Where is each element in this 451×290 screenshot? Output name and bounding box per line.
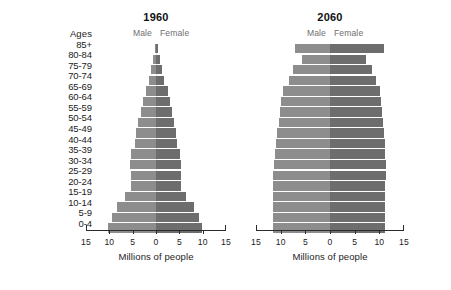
pyramid-row xyxy=(86,149,226,160)
pyramid-row xyxy=(256,213,404,224)
panel-2060: 2060 Male Female Millions of people 1510… xyxy=(256,0,404,290)
axis-tick xyxy=(355,230,356,234)
bar-female xyxy=(330,149,385,158)
bar-female xyxy=(330,86,380,95)
pyramid-row xyxy=(86,55,226,66)
bar-female xyxy=(156,55,160,64)
pyramid-row xyxy=(256,118,404,129)
female-legend-label-1960: Female xyxy=(160,28,189,38)
pyramid-row xyxy=(256,202,404,213)
panel-1960: 1960 Male Female Millions of people 1510… xyxy=(86,0,226,290)
panel-1960-sex-labels: Male Female xyxy=(86,28,226,40)
bar-male xyxy=(275,149,330,158)
male-legend-label-1960: Male xyxy=(133,28,152,38)
bar-male xyxy=(273,213,330,222)
pyramid-row xyxy=(256,65,404,76)
axis-tick xyxy=(256,225,257,231)
pyramid-row xyxy=(86,118,226,129)
axis-tick-label: 10 xyxy=(104,237,114,247)
ages-header: Ages xyxy=(40,28,92,40)
bar-female xyxy=(330,160,386,169)
axis-tick-label: 15 xyxy=(81,237,91,247)
bar-female xyxy=(330,97,381,106)
axis-title-1960: Millions of people xyxy=(86,251,226,262)
axis-tick xyxy=(86,225,87,231)
pyramid-row xyxy=(256,139,404,150)
bar-male xyxy=(141,107,156,116)
bar-male xyxy=(125,192,156,201)
bar-female xyxy=(156,107,172,116)
axis-tick-label: 10 xyxy=(276,237,286,247)
bar-male xyxy=(283,86,330,95)
bar-male xyxy=(131,149,156,158)
bar-male xyxy=(281,97,330,106)
population-pyramid-figure: Ages 85+80-8475-7970-7465-6960-6455-5950… xyxy=(0,0,451,290)
bar-female xyxy=(156,128,176,137)
axis-tick-label: 0 xyxy=(328,237,333,247)
axis-tick-label: 5 xyxy=(352,237,357,247)
bar-male xyxy=(131,181,156,190)
axis-tick xyxy=(203,230,204,234)
bar-female xyxy=(156,118,174,127)
axis-tick xyxy=(403,225,404,231)
bar-male xyxy=(289,76,330,85)
bar-female xyxy=(330,139,385,148)
pyramid-row xyxy=(86,202,226,213)
pyramid-row xyxy=(86,44,226,55)
pyramid-row xyxy=(86,192,226,203)
axis-tick-label: 10 xyxy=(374,237,384,247)
bar-female xyxy=(330,192,385,201)
axis-tick xyxy=(225,225,226,231)
pyramid-row xyxy=(256,107,404,118)
bar-female xyxy=(156,76,164,85)
bar-female xyxy=(156,181,181,190)
bar-female xyxy=(156,213,199,222)
bar-male xyxy=(273,192,330,201)
pyramid-row xyxy=(256,44,404,55)
pyramid-row xyxy=(86,107,226,118)
age-group-list: 85+80-8475-7970-7465-6960-6455-5950-5445… xyxy=(40,40,92,230)
pyramid-row xyxy=(256,160,404,171)
axis-tick xyxy=(379,230,380,234)
bar-female xyxy=(330,128,384,137)
pyramid-row xyxy=(86,171,226,182)
pyramid-row xyxy=(256,181,404,192)
bar-male xyxy=(138,118,156,127)
bar-female xyxy=(330,107,382,116)
bar-male xyxy=(273,181,330,190)
bar-male xyxy=(112,213,156,222)
bar-female xyxy=(330,118,383,127)
bar-male xyxy=(143,97,156,106)
bar-female xyxy=(330,213,385,222)
bar-female xyxy=(330,202,385,211)
pyramid-row xyxy=(86,213,226,224)
bar-female xyxy=(330,44,384,53)
bar-male xyxy=(273,202,330,211)
axis-tick-label: 15 xyxy=(251,237,261,247)
pyramid-row xyxy=(256,128,404,139)
bar-male xyxy=(276,139,330,148)
pyramid-row xyxy=(256,55,404,66)
axis-tick xyxy=(305,230,306,234)
pyramid-row xyxy=(86,76,226,87)
axis-tick xyxy=(281,230,282,234)
bar-female xyxy=(156,149,180,158)
bar-female xyxy=(156,65,162,74)
pyramid-row xyxy=(86,181,226,192)
axis-tick xyxy=(330,230,331,234)
bar-male xyxy=(302,55,330,64)
bar-female xyxy=(330,55,366,64)
axis-tick-label: 0 xyxy=(154,237,159,247)
bar-female xyxy=(156,139,177,148)
bar-female xyxy=(156,202,194,211)
male-legend-label-2060: Male xyxy=(307,28,326,38)
axis-tick xyxy=(133,230,134,234)
pyramid-row xyxy=(256,192,404,203)
bar-female xyxy=(156,86,168,95)
pyramid-row xyxy=(86,97,226,108)
bar-female xyxy=(330,171,386,180)
panel-2060-sex-labels: Male Female xyxy=(256,28,404,40)
pyramid-row xyxy=(256,76,404,87)
bar-male xyxy=(279,118,330,127)
bar-male xyxy=(274,160,330,169)
